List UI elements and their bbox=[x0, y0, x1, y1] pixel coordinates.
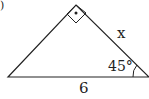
side-x-label: x bbox=[117, 26, 125, 41]
base-label: 6 bbox=[79, 81, 89, 96]
angle-label: 45° bbox=[108, 59, 133, 73]
part-marker: ) bbox=[0, 0, 4, 11]
right-angle-dot bbox=[75, 12, 78, 15]
triangle-diagram bbox=[0, 0, 149, 99]
angle-arc bbox=[133, 65, 137, 77]
